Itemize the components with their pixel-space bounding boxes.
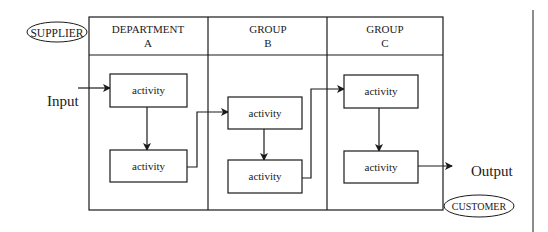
activity-label: activity bbox=[249, 170, 282, 182]
activity-box-a1: activity bbox=[110, 74, 187, 107]
activity-box-b1: activity bbox=[228, 97, 302, 129]
process-flow-diagram: SUPPLIER DEPARTMENT A GROUP B GROUP C In… bbox=[0, 0, 548, 232]
column-header-c: GROUP C bbox=[366, 23, 403, 49]
column-header-b-line2: B bbox=[264, 37, 271, 49]
activity-box-b2: activity bbox=[228, 160, 302, 193]
column-header-c-line2: C bbox=[381, 37, 388, 49]
column-header-c-line1: GROUP bbox=[366, 23, 403, 35]
activity-label: activity bbox=[132, 84, 165, 96]
activity-box-c2: activity bbox=[344, 151, 418, 183]
customer-label: CUSTOMER bbox=[452, 201, 507, 212]
activity-box-a2: activity bbox=[110, 150, 187, 182]
input-label: Input bbox=[47, 93, 79, 109]
column-header-b-line1: GROUP bbox=[249, 23, 286, 35]
output-label: Output bbox=[471, 163, 514, 179]
column-header-a: DEPARTMENT A bbox=[112, 23, 185, 49]
column-header-b: GROUP B bbox=[249, 23, 286, 49]
column-header-a-line2: A bbox=[144, 37, 152, 49]
activity-box-c1: activity bbox=[344, 75, 418, 108]
activity-label: activity bbox=[249, 107, 282, 119]
column-header-a-line1: DEPARTMENT bbox=[112, 23, 185, 35]
supplier-node: SUPPLIER bbox=[27, 22, 87, 42]
customer-node: CUSTOMER bbox=[444, 195, 514, 217]
activity-label: activity bbox=[365, 161, 398, 173]
activity-label: activity bbox=[132, 160, 165, 172]
arrow-b2-to-c1 bbox=[302, 89, 344, 178]
supplier-label: SUPPLIER bbox=[30, 27, 83, 39]
activity-label: activity bbox=[365, 85, 398, 97]
